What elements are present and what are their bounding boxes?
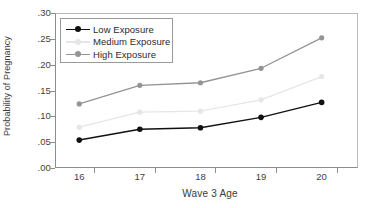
x-tick-mark bbox=[337, 168, 338, 173]
legend-item-label: High Exposure bbox=[90, 49, 156, 60]
y-tick-label: .30 bbox=[23, 7, 51, 18]
data-point-marker bbox=[76, 137, 82, 143]
y-axis-title: Probability of Pregnancy bbox=[0, 0, 14, 190]
x-axis-title: Wave 3 Age bbox=[60, 188, 360, 199]
legend-item-label: Medium Exposure bbox=[90, 36, 170, 47]
data-point-marker bbox=[319, 100, 325, 106]
y-tick-label: .15 bbox=[23, 85, 51, 96]
data-point-marker bbox=[77, 125, 82, 130]
y-tick-label: .10 bbox=[23, 110, 51, 121]
x-tick-mark bbox=[155, 168, 156, 173]
legend-item: High Exposure bbox=[61, 48, 172, 61]
x-tick-label: 18 bbox=[187, 171, 213, 182]
x-tick-label: 16 bbox=[66, 171, 92, 182]
legend-marker-icon bbox=[66, 48, 90, 60]
data-point-marker bbox=[319, 35, 324, 40]
data-point-marker bbox=[137, 110, 142, 115]
x-tick-label: 20 bbox=[309, 171, 335, 182]
legend-marker-icon bbox=[66, 36, 90, 48]
data-point-marker bbox=[198, 109, 203, 114]
data-point-marker bbox=[319, 74, 324, 79]
data-point-marker bbox=[258, 66, 263, 71]
legend-box: Low ExposureMedium ExposureHigh Exposure bbox=[60, 18, 173, 63]
pregnancy-probability-line-chart: Probability of Pregnancy .00.05.10.15.20… bbox=[0, 0, 369, 208]
legend-marker-icon bbox=[66, 23, 90, 35]
x-tick-label: 17 bbox=[127, 171, 153, 182]
y-tick-label: .20 bbox=[23, 59, 51, 70]
series-line bbox=[79, 102, 321, 140]
x-tick-mark bbox=[94, 168, 95, 173]
y-tick-label: .25 bbox=[23, 33, 51, 44]
legend-item: Low Exposure bbox=[61, 23, 172, 36]
x-tick-mark bbox=[215, 168, 216, 173]
data-point-marker bbox=[258, 97, 263, 102]
x-tick-mark bbox=[276, 168, 277, 173]
data-point-marker bbox=[137, 83, 142, 88]
data-point-marker bbox=[258, 115, 264, 121]
data-point-marker bbox=[137, 126, 143, 132]
legend-item-label: Low Exposure bbox=[90, 24, 154, 35]
y-tick-mark bbox=[50, 168, 55, 169]
data-point-marker bbox=[77, 101, 82, 106]
y-tick-label: .05 bbox=[23, 136, 51, 147]
legend-item: Medium Exposure bbox=[61, 36, 172, 49]
y-tick-label: .00 bbox=[23, 162, 51, 173]
data-point-marker bbox=[198, 125, 204, 131]
x-tick-label: 19 bbox=[248, 171, 274, 182]
data-point-marker bbox=[198, 80, 203, 85]
